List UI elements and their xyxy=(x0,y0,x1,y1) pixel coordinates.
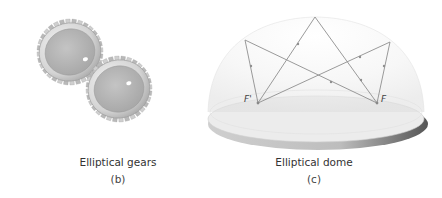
dome-shell xyxy=(208,17,424,112)
focus-label-f-prime: F' xyxy=(244,94,252,104)
panel-label-c: (c) xyxy=(254,173,374,185)
elliptical-dome xyxy=(208,17,428,150)
panel-label-b: (b) xyxy=(58,173,178,185)
focus-point-f xyxy=(376,102,379,105)
figure-canvas xyxy=(0,0,442,198)
caption-elliptical-dome: Elliptical dome xyxy=(254,156,374,168)
focus-point-f-prime xyxy=(257,102,260,105)
caption-elliptical-gears: Elliptical gears xyxy=(58,156,178,168)
focus-label-f: F xyxy=(381,94,386,104)
